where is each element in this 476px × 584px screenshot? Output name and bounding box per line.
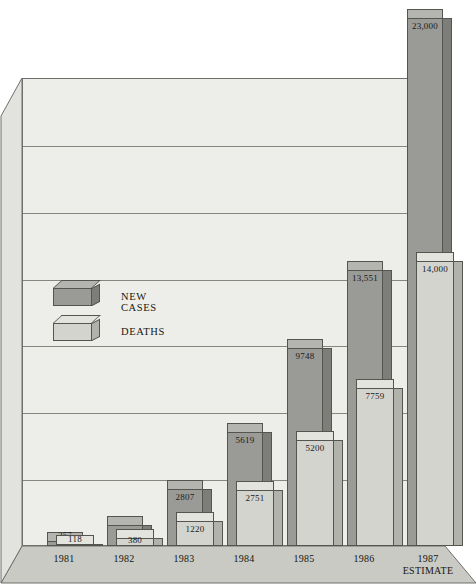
bar-value-label: 14,000 — [416, 264, 454, 274]
bar-front-face — [296, 440, 334, 546]
bar-top-face — [227, 423, 263, 432]
bar-top-face — [176, 512, 214, 521]
x-tick-year: 1983 — [173, 553, 194, 564]
legend-swatch-deaths — [53, 323, 92, 341]
bar-value-label: 380 — [116, 535, 154, 545]
bar-value-label: 2807 — [167, 492, 203, 502]
bar-group: 9748 5200 — [277, 78, 335, 546]
legend-swatch-new-cases — [53, 288, 92, 306]
bar-deaths[interactable]: 118 — [56, 544, 94, 546]
bar-group: 13,551 7759 — [337, 78, 395, 546]
x-tick-year: 1986 — [353, 553, 374, 564]
bar-value-label: 23,000 — [407, 21, 443, 31]
x-tick-year: 1985 — [293, 553, 314, 564]
bar-top-face — [407, 9, 443, 18]
x-tick-year: 1987 — [417, 553, 438, 564]
bar-top-face — [347, 261, 383, 270]
x-tick-1987-estimate: 1987 ESTIMATE — [388, 553, 468, 577]
bar-chart: 257 118 1013 380 — [0, 0, 476, 584]
bar-top-face — [296, 431, 334, 440]
bar-top-face — [356, 379, 394, 388]
x-tick-year: 1982 — [113, 553, 134, 564]
bar-value-label: 5200 — [296, 443, 334, 453]
bar-value-label: 5619 — [227, 435, 263, 445]
bar-value-label: 1220 — [176, 524, 214, 534]
bar-value-label: 9748 — [287, 351, 323, 361]
bar-top-face — [416, 252, 454, 261]
legend-label-deaths: DEATHS — [121, 326, 165, 337]
bar-front-face — [356, 388, 394, 546]
bar-deaths[interactable]: 2751 — [236, 490, 274, 546]
swatch-front-face — [53, 323, 92, 341]
bar-deaths[interactable]: 380 — [116, 538, 154, 546]
bar-deaths[interactable]: 1220 — [176, 521, 214, 546]
bar-top-face — [167, 480, 203, 489]
bar-side-face — [454, 261, 463, 546]
bar-top-face — [287, 339, 323, 348]
bar-deaths[interactable]: 7759 — [356, 388, 394, 546]
bar-group: 5619 2751 — [217, 78, 275, 546]
bar-group: 257 118 — [37, 78, 95, 546]
bar-group: 23,000 14,000 — [397, 78, 455, 546]
legend-label-new-cases: NEW CASES — [121, 291, 157, 313]
bar-group: 2807 1220 — [157, 78, 215, 546]
bar-value-label: 7759 — [356, 391, 394, 401]
bar-value-label: 118 — [56, 534, 94, 544]
bar-deaths[interactable]: 14,000 — [416, 261, 454, 546]
x-tick-sub: ESTIMATE — [388, 565, 468, 577]
bar-deaths[interactable]: 5200 — [296, 440, 334, 546]
bar-top-face — [236, 481, 274, 490]
x-axis-labels: 1981 1982 1983 1984 1985 1986 1987 ESTIM… — [0, 553, 476, 584]
swatch-front-face — [53, 288, 92, 306]
x-tick-year: 1981 — [53, 553, 74, 564]
x-tick-year: 1984 — [233, 553, 254, 564]
bar-value-label: 13,551 — [347, 273, 383, 283]
bar-front-face — [416, 261, 454, 546]
bar-value-label: 2751 — [236, 493, 274, 503]
bar-top-face — [107, 516, 143, 525]
left-wall-polygon — [1, 78, 22, 583]
plot-area: 257 118 1013 380 — [22, 78, 445, 546]
